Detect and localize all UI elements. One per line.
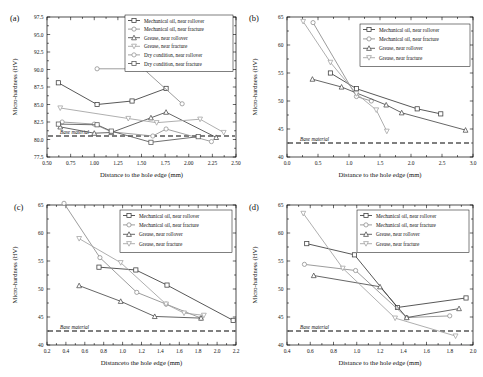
- x-tick-label: 1.8: [446, 348, 453, 354]
- data-marker-triangle-up-2-4: [164, 110, 169, 115]
- data-marker-square-0-0: [328, 71, 332, 75]
- x-tick-label: 1.6: [423, 348, 430, 354]
- data-marker-square-leg0: [132, 18, 136, 22]
- y-tick-label: 87.5: [34, 84, 44, 90]
- y-tick-label: 55: [278, 70, 284, 76]
- data-marker-square-5-1: [95, 123, 99, 127]
- data-marker-circle-leg4: [132, 53, 136, 57]
- data-marker-square-0-1: [134, 268, 138, 272]
- series-1: [95, 67, 184, 106]
- panel-b: (b)0.00.51.01.52.02.53.0404550556065Base…: [245, 0, 483, 190]
- x-tick-label: 1.0: [353, 348, 360, 354]
- legend-label-2: Grease, near rollover: [379, 45, 423, 51]
- y-tick-label: 60: [278, 42, 284, 48]
- x-tick-label: 0.8: [330, 348, 337, 354]
- data-marker-triangle-up-2-0: [310, 77, 315, 82]
- data-marker-square-0-3: [439, 112, 443, 116]
- y-axis-title: Micro-hardness (HV): [11, 59, 19, 116]
- x-tick-label: 3.0: [470, 160, 477, 166]
- data-marker-square-0-2: [415, 107, 419, 111]
- base-material-label: Base material: [300, 136, 330, 142]
- y-axis-title: Micro-hardness (HV): [11, 247, 19, 304]
- x-tick-label: 0.75: [66, 160, 76, 166]
- data-marker-square-0-3: [464, 296, 468, 300]
- x-tick-label: 2.0: [470, 348, 477, 354]
- y-tick-label: 50: [278, 286, 284, 292]
- y-tick-label: 40: [278, 342, 284, 348]
- x-tick-label: 1.8: [195, 348, 202, 354]
- x-tick-label: 1.25: [113, 160, 123, 166]
- data-marker-square-0-2: [130, 99, 134, 103]
- legend-label-2: Grease, near rollover: [144, 35, 188, 41]
- y-tick-label: 50: [278, 98, 284, 104]
- data-marker-circle-1-0: [95, 67, 99, 71]
- x-tick-label: 1.2: [138, 348, 145, 354]
- series-line-0: [58, 83, 166, 105]
- y-tick-label: 60: [38, 230, 44, 236]
- base-material-label: Base material: [60, 324, 90, 330]
- legend-label-1: Mechanical oil, near fracture: [376, 222, 437, 228]
- data-marker-circle-leg1: [132, 27, 136, 31]
- panel-letter: (b): [249, 13, 259, 23]
- x-tick-label: 0.5: [315, 160, 322, 166]
- x-tick-label: 0.6: [307, 348, 314, 354]
- y-tick-label: 50: [38, 286, 44, 292]
- panel-c: (c)0.20.40.60.81.01.21.41.61.82.02.24045…: [0, 188, 245, 377]
- x-tick-label: 0.50: [42, 160, 52, 166]
- x-axis-title: Distance to the hole edge (mm): [339, 171, 422, 179]
- legend-label-3: Grease, near fracture: [376, 241, 420, 247]
- data-marker-circle-4-3: [151, 134, 155, 138]
- panel-b-svg: (b)0.00.51.01.52.02.53.0404550556065Base…: [245, 0, 483, 190]
- data-marker-circle-1-2: [135, 290, 139, 294]
- x-tick-label: 0.8: [100, 348, 107, 354]
- y-tick-label: 60: [278, 230, 284, 236]
- x-tick-label: 0.6: [81, 348, 88, 354]
- data-marker-triangle-up-2-2: [384, 102, 389, 107]
- data-marker-square-5-2: [109, 129, 113, 133]
- series-line-2: [314, 276, 459, 318]
- panel-letter: (a): [10, 13, 20, 23]
- data-marker-triangle-up-2-3: [399, 110, 404, 115]
- data-marker-triangle-up-2-0: [311, 273, 316, 278]
- y-axis-title: Micro-hardness (HV): [251, 59, 259, 116]
- data-marker-square-leg5: [132, 61, 136, 65]
- x-axis-title: Distance to the hole edge (mm): [100, 171, 183, 179]
- data-marker-triangle-down-3-4: [384, 129, 389, 134]
- data-marker-circle-1-0: [302, 262, 306, 266]
- data-marker-circle-leg1: [364, 223, 368, 227]
- y-tick-label: 90.0: [34, 67, 44, 73]
- data-marker-circle-4-4: [164, 127, 168, 131]
- y-tick-label: 92.5: [34, 49, 44, 55]
- x-tick-label: 1.5: [377, 160, 384, 166]
- legend-label-1: Mechanical oil, near fracture: [139, 222, 200, 228]
- y-tick-label: 80.0: [34, 137, 44, 143]
- series-0: [56, 81, 168, 107]
- series-line-1: [304, 264, 449, 317]
- x-tick-label: 1.75: [160, 160, 170, 166]
- data-marker-square-0-0: [305, 242, 309, 246]
- legend-label-0: Mechanical oil, near rollover: [379, 27, 439, 33]
- y-tick-label: 65: [38, 202, 44, 208]
- x-tick-label: 0.0: [284, 160, 291, 166]
- data-marker-circle-1-1: [98, 256, 102, 260]
- panel-d-svg: (d)0.40.60.81.01.21.41.61.82.04045505560…: [245, 188, 483, 377]
- panel-c-svg: (c)0.20.40.60.81.01.21.41.61.82.02.24045…: [0, 188, 245, 377]
- panel-a: (a)0.500.751.001.251.501.752.002.252.507…: [0, 0, 245, 190]
- y-tick-label: 40: [38, 342, 44, 348]
- series-2: [310, 77, 468, 133]
- series-line-0: [307, 244, 466, 308]
- legend-label-3: Grease, near fracture: [144, 43, 188, 49]
- data-marker-triangle-down-3-4: [221, 130, 226, 135]
- data-marker-square-5-3: [149, 140, 153, 144]
- x-tick-label: 1.50: [137, 160, 147, 166]
- data-marker-square-0-0: [56, 81, 60, 85]
- x-tick-label: 2.00: [184, 160, 194, 166]
- x-tick-label: 2.0: [214, 348, 221, 354]
- x-tick-label: 1.2: [377, 348, 384, 354]
- x-tick-label: 0.4: [284, 348, 291, 354]
- data-marker-square-5-4: [196, 135, 200, 139]
- legend-label-3: Grease, near fracture: [379, 55, 423, 61]
- legend-label-0: Mechanical oil, near rollover: [144, 18, 204, 24]
- panel-a-svg: (a)0.500.751.001.251.501.752.002.252.507…: [0, 0, 245, 190]
- panel-letter: (d): [249, 202, 259, 212]
